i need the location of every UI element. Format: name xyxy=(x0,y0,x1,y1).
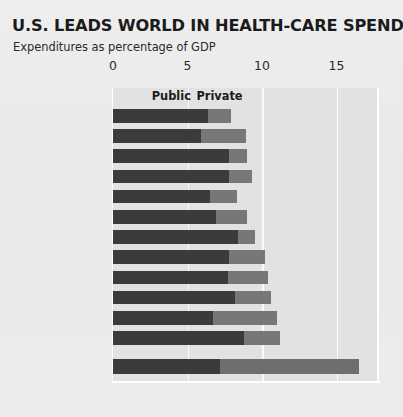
bar-row: Sweden xyxy=(0,228,403,248)
bar-segment-private xyxy=(213,311,277,325)
bar-segment-private xyxy=(228,271,268,285)
x-axis-tick-labels: 051015 xyxy=(0,58,403,78)
bar-row: Spain xyxy=(0,188,403,208)
x-tick-label-15: 15 xyxy=(329,58,345,73)
bar-segment-private xyxy=(229,250,265,264)
bar-segment-public xyxy=(113,331,244,345)
x-tick-label-5: 5 xyxy=(184,58,192,73)
bar-segment-public xyxy=(113,271,228,285)
x-tick-label-10: 10 xyxy=(254,58,270,73)
bar-segment-private xyxy=(216,210,247,224)
legend-item-private: Private xyxy=(196,89,242,103)
bar-row: Japan xyxy=(0,107,403,127)
bar-segment-public xyxy=(113,311,213,325)
bar-segment-private xyxy=(238,230,254,244)
bar-row: Canada xyxy=(0,248,403,268)
bar-segment-public xyxy=(113,190,210,204)
bar-segment-private xyxy=(229,170,251,184)
bar-segment-public xyxy=(113,210,216,224)
chart-title: U.S. LEADS WORLD IN HEALTH-CARE SPENDING xyxy=(12,16,397,35)
plot-bottom-rule xyxy=(112,381,380,383)
bar-row: Switzerland xyxy=(0,309,403,329)
bar-segment-private xyxy=(201,129,246,143)
chart-page: U.S. LEADS WORLD IN HEALTH-CARE SPENDING… xyxy=(0,0,403,417)
bar-row: Italy xyxy=(0,208,403,228)
legend-item-public: Public xyxy=(152,89,191,103)
bar-segment-private xyxy=(210,190,237,204)
chart-legend: Public Private xyxy=(112,89,378,106)
bar-row: United States xyxy=(0,358,403,378)
bar-segment-public xyxy=(113,109,208,123)
bar-segment-private xyxy=(208,109,230,123)
bar-segment-private xyxy=(244,331,280,345)
bar-segment-private xyxy=(220,359,359,374)
bar-row: Germany xyxy=(0,289,403,309)
bar-segment-public xyxy=(113,230,238,244)
bar-row: United Kingdom xyxy=(0,168,403,188)
bar-segment-public xyxy=(113,129,201,143)
bar-row: France xyxy=(0,329,403,349)
x-tick-label-0: 0 xyxy=(109,58,117,73)
bar-row: Australia xyxy=(0,127,403,147)
bar-segment-private xyxy=(235,291,271,305)
bar-row: Norway xyxy=(0,147,403,167)
bar-segment-public xyxy=(113,291,235,305)
bar-segment-public xyxy=(113,149,229,163)
chart-subtitle: Expenditures as percentage of GDP xyxy=(13,40,216,54)
bar-segment-private xyxy=(229,149,247,163)
bar-row: Austria xyxy=(0,269,403,289)
bar-segment-public xyxy=(113,359,220,374)
bar-segment-public xyxy=(113,250,229,264)
bar-segment-public xyxy=(113,170,229,184)
